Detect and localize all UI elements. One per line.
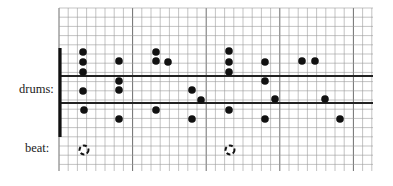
- note-dot: [225, 58, 233, 66]
- note-dot: [164, 58, 172, 66]
- note-dot: [188, 86, 196, 94]
- note-dot: [115, 77, 123, 85]
- note-dot: [80, 106, 88, 114]
- note-dot: [79, 48, 87, 56]
- note-dot: [152, 106, 160, 114]
- note-dot: [261, 115, 269, 123]
- note-dot: [115, 115, 123, 123]
- note-dot: [336, 115, 344, 123]
- note-dot: [225, 47, 233, 55]
- note-dot: [261, 58, 269, 66]
- note-dot: [271, 95, 279, 103]
- note-dot: [197, 96, 205, 104]
- note-dot: [225, 106, 233, 114]
- drum-grid-diagram: [0, 0, 393, 186]
- note-dot: [321, 95, 329, 103]
- note-dot: [79, 58, 87, 66]
- note-dot: [152, 48, 160, 56]
- beat-marker: [80, 146, 89, 155]
- note-dot: [225, 68, 233, 76]
- note-dot: [188, 115, 196, 123]
- drums-label: drums:: [19, 82, 54, 97]
- beat-label: beat:: [25, 141, 49, 156]
- note-dot: [298, 57, 306, 65]
- note-dot: [115, 57, 123, 65]
- note-dot: [115, 86, 123, 94]
- note-dot: [79, 68, 87, 76]
- beat-marker: [226, 146, 235, 155]
- note-dot: [311, 57, 319, 65]
- note-dot: [261, 77, 269, 85]
- note-dot: [152, 57, 160, 65]
- note-dot: [79, 87, 87, 95]
